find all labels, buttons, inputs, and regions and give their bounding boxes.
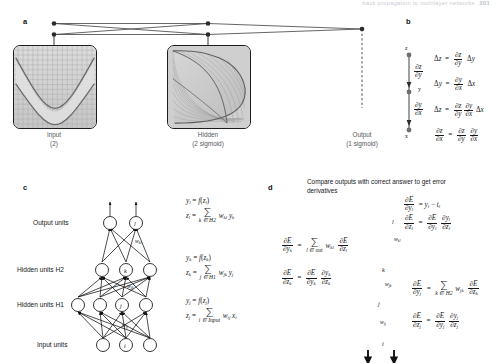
panel-b-node-x: x <box>405 134 408 140</box>
panel-b-edge-label-zy: ∂z∂y <box>413 64 424 79</box>
panel-d-unit-j: j <box>378 300 380 307</box>
panel-b-eq-2: Δy = ∂y∂x Δx <box>434 77 475 92</box>
panel-b-eq-3: Δz = ∂z∂y∂y∂x Δx <box>434 103 484 118</box>
panel-d-eq-right-1: ∂E∂yj = Σk ∈ H2 wjk ∂E∂zk <box>411 281 480 297</box>
panel-d-unit-l: l <box>392 218 394 225</box>
panel-d-eq-left-1: ∂E∂yk = Σl ∈ out wkl ∂E∂zl <box>281 238 349 254</box>
panel-d-network <box>0 150 496 363</box>
panel-b-node-y: y <box>418 87 421 93</box>
panel-d-weight-jk: wjk <box>385 281 391 288</box>
panel-d-eq-top-2: ∂E∂zl = ∂E∂yl ∂yl∂zl <box>403 215 452 232</box>
panel-d-unit-k: k <box>382 266 385 273</box>
panel-d-eq-top-1: ∂E∂yl = yl − tl <box>403 197 440 213</box>
panel-d-eq-right-2: ∂E∂zj = ∂E∂yj ∂yj∂zj <box>411 313 460 330</box>
panel-b-node-z: z <box>405 46 408 52</box>
panel-d-eq-left-2: ∂E∂zk = ∂E∂yk ∂yk∂zk <box>281 270 332 287</box>
panel-d-weight-kl: wkl <box>394 236 400 243</box>
panel-b-eq-1: Δz = ∂z∂y Δy <box>434 52 475 67</box>
panel-b-edge-label-yx: ∂y∂x <box>413 102 424 117</box>
panel-b-eq-4: ∂z∂x = ∂z∂y ∂y∂x <box>434 128 479 143</box>
panel-d-weight-ij: wij <box>380 319 386 326</box>
figure-backpropagation: back propagation to multilayer networks … <box>0 0 496 363</box>
panel-d-unit-i: i <box>382 340 384 347</box>
